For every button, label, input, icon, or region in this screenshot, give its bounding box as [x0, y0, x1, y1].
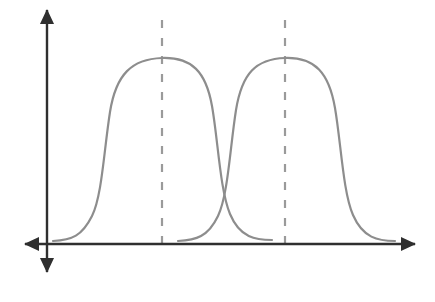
plot-canvas	[0, 0, 435, 302]
arrow-right-icon	[401, 237, 416, 251]
chart-figure	[0, 0, 435, 302]
curve-2	[178, 58, 395, 241]
arrow-left-icon	[24, 237, 39, 251]
arrow-up-icon	[40, 9, 54, 24]
curves-group	[53, 58, 395, 241]
guide-lines-group	[162, 20, 285, 253]
axis-arrowheads-group	[24, 9, 416, 273]
axes-group	[25, 10, 415, 272]
arrow-down-icon	[40, 258, 54, 273]
